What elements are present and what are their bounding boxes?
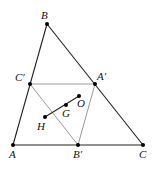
point-a-prime (93, 82, 97, 86)
label-a: A (8, 148, 16, 160)
label-c: C (139, 148, 147, 160)
label-c-prime: C′ (15, 71, 25, 83)
label-o: O (77, 97, 85, 109)
point-h (43, 115, 47, 119)
segment-a1-b1 (78, 84, 95, 145)
label-b-prime: B′ (73, 148, 83, 160)
label-a-prime: A′ (96, 70, 107, 82)
label-g: G (62, 107, 70, 119)
triangle-diagram: B C′ A′ O G H A B′ C (0, 0, 156, 170)
point-a (11, 143, 15, 147)
point-c (141, 143, 145, 147)
point-c-prime (28, 82, 32, 86)
point-b (45, 22, 49, 26)
segment-c1-b1 (30, 84, 78, 145)
label-b: B (41, 9, 48, 21)
label-h: H (36, 120, 46, 132)
point-b-prime (76, 143, 80, 147)
